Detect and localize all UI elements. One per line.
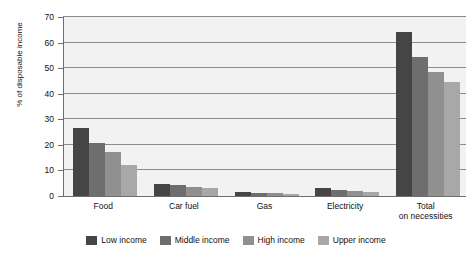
y-axis-tick-mark [58,145,63,146]
bar[interactable] [73,128,89,196]
x-axis-category-label: Food [63,201,144,211]
y-axis-tick-mark [58,94,63,95]
category-label-line: Food [63,201,144,211]
y-axis-tick-label: 60 [16,38,54,48]
y-axis-tick-mark [58,17,63,18]
y-axis-tick-label: 10 [16,165,54,175]
legend-swatch [243,236,254,245]
category-label-line: on necessities [385,211,466,221]
y-axis-tick-label: 20 [16,140,54,150]
plot-area [63,17,466,196]
bar[interactable] [444,82,460,196]
bar[interactable] [412,57,428,196]
bar-group [235,17,299,196]
y-axis-tick-mark [58,68,63,69]
x-axis-category-label: Car fuel [144,201,225,211]
category-label-line: Total [385,201,466,211]
bar[interactable] [105,152,121,196]
legend-label: Middle income [175,235,230,245]
y-axis-tick-mark [58,43,63,44]
legend-label: High income [258,235,305,245]
bar[interactable] [428,72,444,196]
y-axis-tick-label: 0 [16,191,54,201]
bar-group [315,17,379,196]
legend-item[interactable]: Upper income [318,235,386,245]
bar[interactable] [186,187,202,196]
bar[interactable] [170,185,186,196]
y-axis-tick-label: 70 [16,12,54,22]
bar-group [396,17,460,196]
bar[interactable] [89,143,105,196]
legend-swatch [318,236,329,245]
legend-swatch [160,236,171,245]
x-axis-line [63,196,466,197]
y-axis-tick-label: 50 [16,63,54,73]
x-axis-category-label: Electricity [305,201,386,211]
y-axis-tick-mark [58,196,63,197]
bar[interactable] [121,165,137,196]
y-axis-tick-mark [58,170,63,171]
category-label-line: Gas [224,201,305,211]
bar-group [154,17,218,196]
bar[interactable] [315,188,331,196]
legend-label: Upper income [333,235,386,245]
legend-item[interactable]: Middle income [160,235,230,245]
x-axis-category-label: Gas [224,201,305,211]
y-axis-tick-label: 30 [16,114,54,124]
x-axis-category-label: Totalon necessities [385,201,466,221]
y-axis-tick-mark [58,119,63,120]
legend-item[interactable]: High income [243,235,305,245]
bar[interactable] [202,188,218,196]
chart-legend: Low incomeMiddle incomeHigh incomeUpper … [0,235,472,245]
bar[interactable] [396,32,412,196]
legend-swatch [86,236,97,245]
category-label-line: Electricity [305,201,386,211]
bar-group [73,17,137,196]
legend-item[interactable]: Low income [86,235,146,245]
y-axis-line [63,17,64,197]
category-label-line: Car fuel [144,201,225,211]
bar[interactable] [154,184,170,196]
y-axis-tick-label: 40 [16,89,54,99]
legend-label: Low income [101,235,146,245]
